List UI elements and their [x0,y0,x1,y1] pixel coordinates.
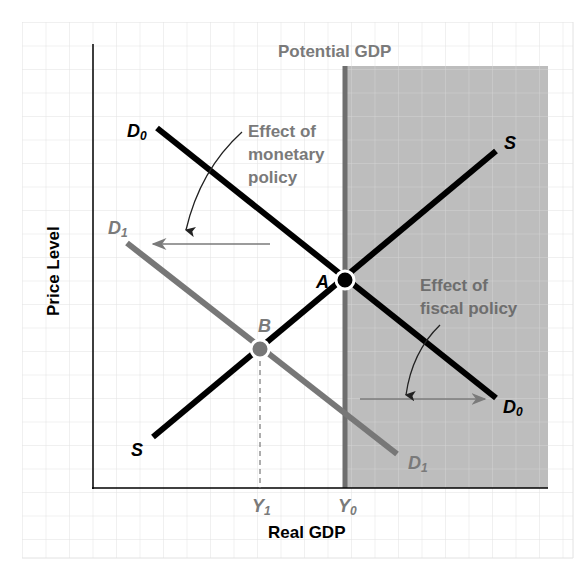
x-axis-title: Real GDP [268,523,345,542]
potential-gdp-label: Potential GDP [278,42,391,61]
monetary-label-line2: monetary [248,145,325,164]
point-a-label: A [315,272,329,292]
fiscal-label-line2: fiscal policy [420,299,518,318]
point-b-label: B [258,316,271,336]
monetary-label-line1: Effect of [248,122,316,141]
y-axis-title: Price Level [44,226,63,316]
s-label-bottom: S [131,440,143,460]
s-label-top: S [504,133,516,153]
fiscal-label-line1: Effect of [420,276,488,295]
chart-canvas: Potential GDP Effect of monetary policy … [0,0,583,571]
point-a [336,271,354,289]
monetary-label-line3: policy [248,168,298,187]
point-b [251,340,269,358]
